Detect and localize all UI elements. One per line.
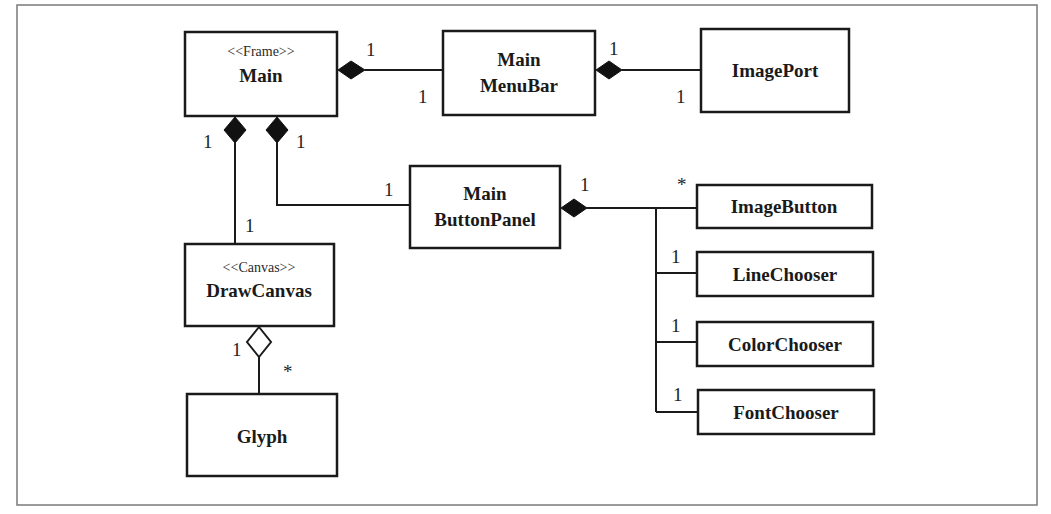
class-drawcanvas-stereotype: <<Canvas>> <box>223 260 296 275</box>
class-mainbuttonpanel-box <box>410 166 560 248</box>
multiplicity-label: 1 <box>418 86 428 107</box>
class-mainbuttonpanel-name-line1: Main <box>463 183 507 204</box>
class-imagebutton-name: ImageButton <box>731 196 838 217</box>
multiplicity-label: 1 <box>671 246 681 267</box>
class-colorchooser-name: ColorChooser <box>728 334 843 355</box>
multiplicity-label: 1 <box>673 384 683 405</box>
class-linechooser-name: LineChooser <box>733 264 838 285</box>
class-mainmenubar-name-line2: MenuBar <box>480 75 559 96</box>
multiplicity-label: 1 <box>609 38 619 59</box>
composition-diamond-icon <box>596 61 622 79</box>
class-mainmenubar-name-line1: Main <box>497 49 541 70</box>
multiplicity-label: 1 <box>245 215 255 236</box>
class-mainbuttonpanel-name-line2: ButtonPanel <box>434 209 535 230</box>
class-linechooser[interactable]: LineChooser <box>697 252 873 296</box>
class-main-stereotype: <<Frame>> <box>227 44 294 59</box>
multiplicity-label: 1 <box>366 39 376 60</box>
class-mainbuttonpanel[interactable]: Main ButtonPanel <box>410 166 560 248</box>
multiplicity-label: * <box>677 174 687 195</box>
class-imagebutton[interactable]: ImageButton <box>697 185 872 228</box>
class-glyph-name: Glyph <box>237 426 288 447</box>
class-mainmenubar[interactable]: Main MenuBar <box>443 31 595 115</box>
multiplicity-label: 1 <box>671 315 681 336</box>
class-main[interactable]: <<Frame>> Main <box>185 32 337 116</box>
composition-diamond-icon <box>561 199 587 217</box>
class-glyph[interactable]: Glyph <box>187 394 337 476</box>
class-imageport[interactable]: ImagePort <box>701 29 849 112</box>
class-imageport-name: ImagePort <box>732 60 819 81</box>
class-colorchooser[interactable]: ColorChooser <box>697 322 873 366</box>
aggregation-diamond-icon <box>247 327 271 357</box>
class-drawcanvas-name: DrawCanvas <box>206 280 312 301</box>
class-drawcanvas[interactable]: <<Canvas>> DrawCanvas <box>185 244 334 326</box>
multiplicity-label: 1 <box>203 131 213 152</box>
multiplicity-label: 1 <box>296 131 306 152</box>
class-mainmenubar-box <box>443 31 595 115</box>
multiplicity-label: * <box>283 361 293 382</box>
multiplicity-label: 1 <box>232 339 242 360</box>
class-fontchooser-name: FontChooser <box>733 402 839 423</box>
multiplicity-label: 1 <box>676 86 686 107</box>
composition-diamond-icon <box>338 61 365 79</box>
multiplicity-label: 1 <box>384 179 394 200</box>
class-fontchooser[interactable]: FontChooser <box>698 390 874 434</box>
uml-class-diagram: <<Frame>> Main Main MenuBar ImagePort Ma… <box>0 0 1051 514</box>
multiplicity-label: 1 <box>580 174 590 195</box>
composition-diamond-icon <box>266 117 288 143</box>
class-main-name: Main <box>239 65 283 86</box>
composition-diamond-icon <box>224 117 246 143</box>
